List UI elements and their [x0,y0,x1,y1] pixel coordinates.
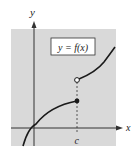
c-label: c [75,135,80,146]
y-axis-label: y [29,6,35,18]
y-axis-arrow-icon [32,21,37,28]
closed-point [75,99,80,104]
function-graph: y x c y = f(x) [0,0,133,164]
x-axis-label: x [125,122,131,133]
x-axis-arrow-icon [116,126,123,131]
open-point [75,78,80,83]
function-label: y = f(x) [57,42,89,54]
